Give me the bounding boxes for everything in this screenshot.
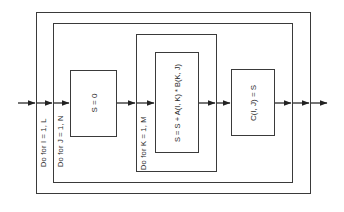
flow-arrows xyxy=(0,0,344,212)
